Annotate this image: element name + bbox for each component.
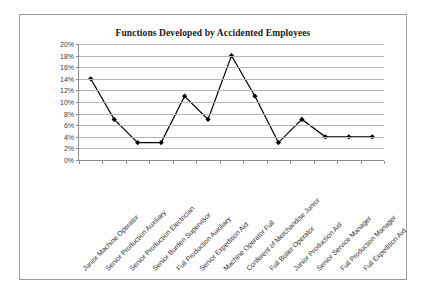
chart-container: Functions Developed by Accidented Employ… bbox=[19, 14, 407, 280]
y-tick-mark bbox=[76, 148, 79, 149]
gridline bbox=[79, 114, 384, 115]
plot-area bbox=[78, 44, 384, 161]
plot-wrapper: 20%18%16%14%12%10%8%6%4%2%0% Junior Mach… bbox=[20, 15, 408, 281]
gridline bbox=[79, 137, 384, 138]
y-axis-tick-label: 2% bbox=[48, 145, 74, 152]
y-tick-mark bbox=[76, 67, 79, 68]
y-axis-tick-labels: 20%18%16%14%12%10%8%6%4%2%0% bbox=[48, 44, 74, 160]
y-axis-tick-label: 8% bbox=[48, 110, 74, 117]
data-point-marker bbox=[159, 140, 164, 145]
y-tick-mark bbox=[76, 44, 79, 45]
gridline bbox=[79, 90, 384, 91]
data-point-marker bbox=[252, 94, 257, 99]
gridline bbox=[79, 102, 384, 103]
series-line bbox=[91, 56, 373, 143]
y-axis-tick-label: 10% bbox=[48, 99, 74, 106]
gridline bbox=[79, 79, 384, 80]
y-axis-tick-label: 18% bbox=[48, 52, 74, 59]
y-axis-tick-label: 6% bbox=[48, 122, 74, 129]
y-tick-mark bbox=[76, 90, 79, 91]
y-tick-mark bbox=[76, 125, 79, 126]
x-axis-tick-label: Full Boiler Operator bbox=[268, 225, 315, 272]
y-tick-mark bbox=[76, 114, 79, 115]
y-axis-tick-label: 4% bbox=[48, 133, 74, 140]
y-axis-tick-label: 14% bbox=[48, 75, 74, 82]
y-tick-mark bbox=[76, 56, 79, 57]
gridline bbox=[79, 44, 384, 45]
y-tick-mark bbox=[76, 102, 79, 103]
y-axis-tick-label: 0% bbox=[48, 157, 74, 164]
y-tick-mark bbox=[76, 137, 79, 138]
gridline bbox=[79, 67, 384, 68]
gridline bbox=[79, 125, 384, 126]
y-axis-tick-label: 16% bbox=[48, 64, 74, 71]
x-axis-tick-label: Full Expedition Aid bbox=[362, 227, 407, 272]
y-axis-tick-label: 20% bbox=[48, 41, 74, 48]
gridline bbox=[79, 56, 384, 57]
x-axis-tick-labels: Junior Machine OperatorSenior Production… bbox=[78, 162, 398, 272]
y-axis-tick-label: 12% bbox=[48, 87, 74, 94]
y-tick-mark bbox=[76, 79, 79, 80]
gridline bbox=[79, 148, 384, 149]
